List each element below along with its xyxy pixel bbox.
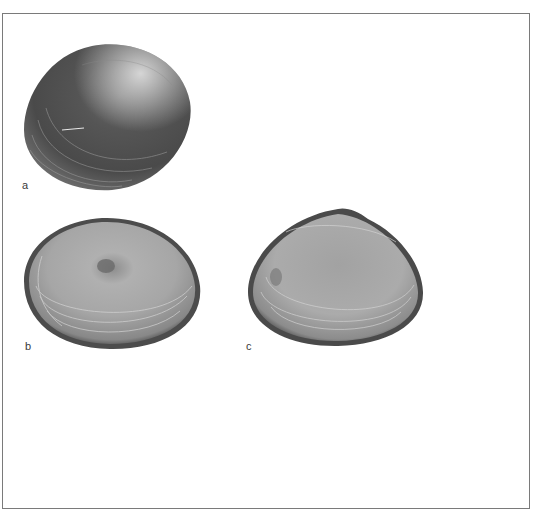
- shell-interior-graphic: [22, 216, 203, 351]
- shell-image-b: [22, 216, 203, 351]
- shell-image-a: [22, 40, 194, 192]
- panel-label-c: c: [246, 341, 252, 352]
- shell-exterior-graphic: [22, 40, 194, 192]
- panel-label-a: a: [22, 180, 28, 191]
- shell-image-c: [246, 207, 425, 348]
- shell-interior-graphic: [246, 207, 425, 348]
- panel-label-b: b: [25, 341, 31, 352]
